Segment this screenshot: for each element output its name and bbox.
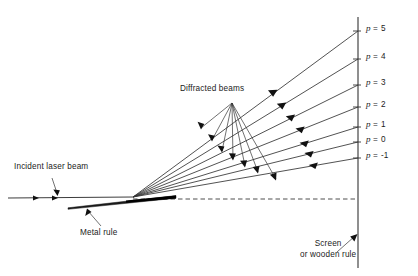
ray-arrowhead-p4 [277,102,286,109]
diffracted-beams-leader-lines [201,103,276,179]
order-symbol-p2: p [366,99,371,109]
order-value-p2: 2 [381,100,386,109]
metal-rule-leader-arrowhead [85,209,91,217]
diffracted-beams-label: Diffracted beams [180,84,244,95]
order-value-pm1: -1 [381,151,389,160]
metal-rule-leader-line [88,211,101,226]
incident-beam-arrowhead-1 [33,195,39,200]
order-equals-p2: = [373,100,378,109]
leader-arrowhead-4 [229,153,236,160]
order-value-p4: 4 [381,52,386,61]
order-value-p3: 3 [381,78,386,87]
leader-arrowhead-6 [253,166,260,174]
diffracted-ray-p5 [133,31,358,197]
screen-label-line2: or wooden rule [300,250,356,261]
incident-beam-arrowhead-2 [52,195,58,200]
order-equals-pm1: = [373,151,378,160]
order-symbol-p1: p [366,119,371,129]
order-symbol-p5: p [366,23,371,33]
diffracted-ray-p3 [133,85,358,197]
order-equals-p1: = [373,120,378,129]
metal-rule-label: Metal rule [80,228,117,239]
order-value-p1: 1 [381,120,386,129]
leader-line-4 [232,103,233,159]
ray-arrowhead-p0 [304,151,313,158]
incident-beam-leader-arrowhead [53,190,60,196]
order-symbol-pm1: p [366,150,371,160]
order-symbol-p0: p [366,134,371,144]
ray-arrowhead-p1 [300,141,309,148]
screen-intersection-ticks [353,31,361,158]
screen-label: Screen or wooden rule [300,239,356,260]
diffraction-figure: Incident laser beam Diffracted beams Met… [0,0,418,276]
ray-arrowhead-p5 [268,90,278,97]
figure-canvas [0,0,418,276]
order-value-p5: 5 [381,24,386,33]
order-equals-p4: = [373,52,378,61]
order-equals-p5: = [373,24,378,33]
diffracted-ray-p2 [133,107,358,197]
leader-arrowhead-7 [270,173,277,181]
order-label-p4: p = 4 [366,51,386,63]
order-equals-p3: = [373,78,378,87]
order-value-p0: 0 [381,135,386,144]
order-label-p5: p = 5 [366,23,386,35]
order-equals-p0: = [373,135,378,144]
order-label-p3: p = 3 [366,77,386,89]
order-symbol-p3: p [366,77,371,87]
leader-arrowhead-3 [217,146,224,153]
incident-laser-beam-line [8,197,133,198]
screen-label-line1: Screen [300,239,356,250]
leader-arrowhead-1 [198,122,205,130]
order-label-p2: p = 2 [366,99,386,111]
diffracted-ray-p0 [133,142,358,197]
diffracted-beam-rays [133,31,358,197]
ray-arrowhead-pm1 [309,163,318,169]
diffracted-ray-arrowheads [268,90,318,169]
order-label-p0: p = 0 [366,134,386,146]
order-symbol-p4: p [366,51,371,61]
order-label-p1: p = 1 [366,119,386,131]
incident-laser-beam-label: Incident laser beam [14,162,88,173]
diffracted-ray-p4 [133,59,358,197]
ray-arrowhead-p2 [296,127,305,134]
leader-arrowhead-5 [240,160,247,167]
leader-line-2 [212,103,232,140]
order-label-pm1: p = -1 [366,150,389,162]
